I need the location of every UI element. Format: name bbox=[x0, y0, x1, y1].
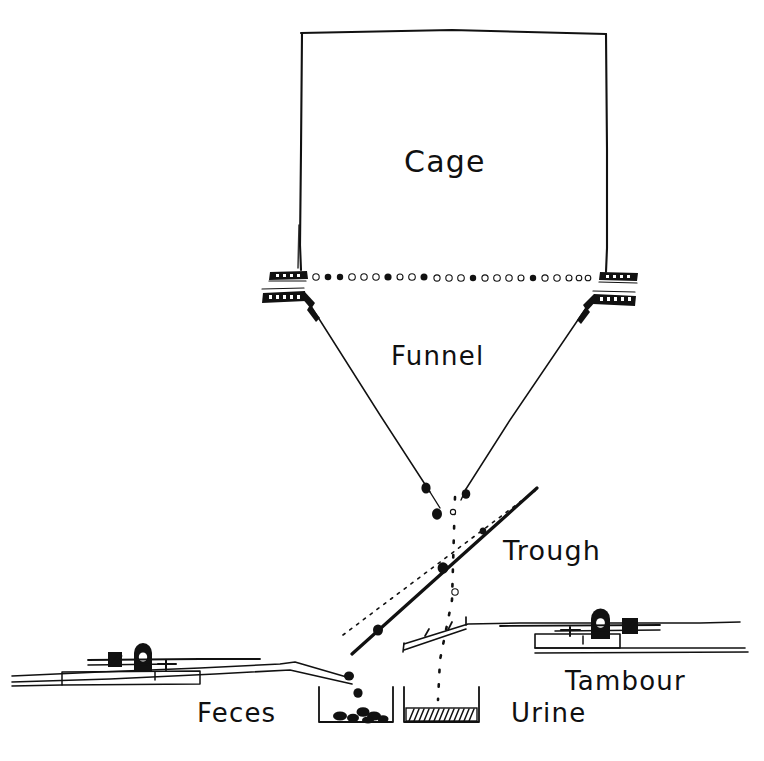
mesh-circle bbox=[470, 275, 476, 281]
mesh-circle bbox=[506, 275, 512, 281]
trough-pellet bbox=[373, 624, 383, 635]
label-feces: Feces bbox=[197, 698, 276, 728]
clamp-hatch bbox=[627, 275, 630, 278]
clamp-hatch bbox=[290, 295, 293, 299]
paper-background bbox=[0, 0, 764, 761]
mesh-circle bbox=[409, 274, 416, 281]
cage-right-wall bbox=[606, 34, 607, 272]
tambour-weight bbox=[622, 618, 638, 634]
pellet bbox=[421, 482, 430, 493]
clamp-hatch bbox=[290, 274, 293, 277]
tambour-base-rail-lower bbox=[535, 652, 748, 653]
clamp-hatch bbox=[620, 275, 623, 278]
feces-pellet bbox=[378, 715, 389, 723]
clamp-hatch bbox=[628, 297, 631, 301]
pellet bbox=[462, 489, 471, 499]
clamp-hatch bbox=[283, 274, 286, 277]
diagram-canvas: Cage Funnel Trough Tambour Feces Urine bbox=[0, 0, 764, 761]
clamp-hatch bbox=[600, 297, 603, 301]
mesh-circle bbox=[337, 274, 343, 280]
clamp-hatch bbox=[276, 295, 279, 299]
mesh-circle bbox=[384, 273, 391, 280]
trough-pellet bbox=[438, 562, 449, 574]
clamp-hatch bbox=[276, 274, 279, 277]
tambour-dome-hole bbox=[596, 618, 605, 628]
pellet bbox=[432, 508, 442, 520]
trough-drip-bead bbox=[452, 589, 458, 595]
metabolism-cage-diagram: Cage Funnel Trough Tambour Feces Urine bbox=[0, 0, 764, 761]
mesh-circle bbox=[349, 274, 356, 281]
clamp-hatch bbox=[614, 297, 617, 301]
weight-block bbox=[108, 652, 122, 667]
mesh-circle bbox=[373, 274, 379, 280]
mesh-circle bbox=[566, 275, 572, 281]
mesh-circle bbox=[542, 275, 548, 281]
mesh-circle bbox=[494, 275, 501, 282]
recorder-base-extension bbox=[12, 685, 62, 686]
mesh-circle bbox=[397, 274, 403, 280]
feces-pellet bbox=[362, 716, 374, 723]
feces-pellet bbox=[347, 714, 359, 722]
clamp-hatch bbox=[297, 274, 300, 277]
clamp-hatch bbox=[297, 295, 300, 299]
label-cage: Cage bbox=[404, 144, 486, 179]
label-funnel: Funnel bbox=[391, 341, 484, 371]
feces-pellet bbox=[333, 712, 347, 721]
clamp-bar bbox=[269, 271, 308, 280]
weight-block bbox=[622, 618, 638, 634]
mesh-circle bbox=[585, 275, 591, 281]
chute-pellet bbox=[344, 671, 354, 680]
clamp-hatch bbox=[613, 275, 616, 278]
label-tambour: Tambour bbox=[564, 666, 686, 696]
mesh-circle bbox=[530, 275, 536, 281]
mesh-circle bbox=[325, 274, 332, 281]
feces-pellet-falling bbox=[353, 688, 362, 698]
mesh-circle bbox=[446, 275, 452, 281]
clamp-hatch bbox=[607, 297, 610, 301]
label-trough: Trough bbox=[502, 535, 601, 566]
mesh-circle bbox=[518, 275, 524, 281]
mesh-circle bbox=[313, 274, 319, 280]
clamp-hatch bbox=[621, 297, 624, 301]
mesh-circle bbox=[434, 275, 440, 281]
clamp-hatch bbox=[269, 295, 272, 299]
mesh-circle bbox=[554, 275, 560, 281]
clamp-hatch bbox=[606, 275, 609, 278]
cage-left-wall-shadow bbox=[298, 225, 299, 268]
mesh-circle bbox=[421, 274, 428, 281]
clamp-bar bbox=[599, 272, 638, 281]
trough-pellet bbox=[480, 527, 487, 534]
mesh-circle bbox=[576, 275, 582, 281]
trough-drip-bead bbox=[450, 509, 455, 514]
mesh-circle bbox=[458, 275, 465, 282]
mesh-circle bbox=[361, 274, 367, 280]
recorder-weight bbox=[108, 652, 122, 667]
chute-end-cap bbox=[403, 643, 404, 652]
label-urine: Urine bbox=[511, 698, 586, 728]
mesh-circle bbox=[482, 275, 488, 281]
clamp-hatch bbox=[283, 295, 286, 299]
